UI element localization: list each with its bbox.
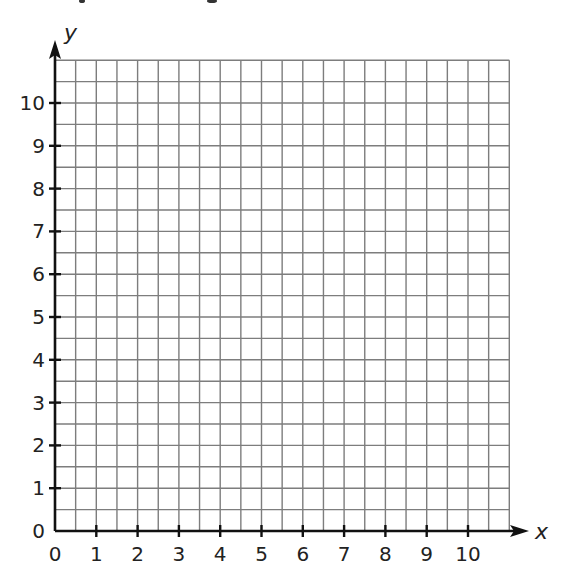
y-tick-label: 1 [32,476,45,500]
x-tick-label: 5 [255,542,268,566]
y-axis-label: y [63,20,78,45]
x-tick-label: 8 [379,542,392,566]
y-tick-label: 5 [32,305,45,329]
y-tick-label: 9 [32,134,45,158]
y-tick-label: 0 [32,519,45,543]
grid-lines [55,60,509,531]
cropped-heading-fragment [79,0,217,3]
y-tick-label: 3 [32,391,45,415]
x-tick-label: 7 [338,542,351,566]
y-tick-label: 6 [32,262,45,286]
x-tick-label: 1 [90,542,103,566]
x-tick-label: 9 [420,542,433,566]
coordinate-grid: 012345678910 012345678910 x y [0,0,575,579]
x-tick-label: 6 [296,542,309,566]
x-tick-label: 2 [131,542,144,566]
y-tick-label: 2 [32,433,45,457]
y-tick-label: 10 [20,91,45,115]
y-axis-tick-labels: 012345678910 [20,91,45,543]
axes [49,40,529,537]
x-tick-label: 4 [214,542,227,566]
y-tick-label: 7 [32,219,45,243]
x-axis-label: x [534,519,549,544]
x-tick-label: 10 [455,542,480,566]
x-tick-label: 0 [49,542,62,566]
x-axis-tick-labels: 012345678910 [49,542,481,566]
y-tick-label: 4 [32,348,45,372]
x-tick-label: 3 [173,542,186,566]
y-tick-label: 8 [32,177,45,201]
